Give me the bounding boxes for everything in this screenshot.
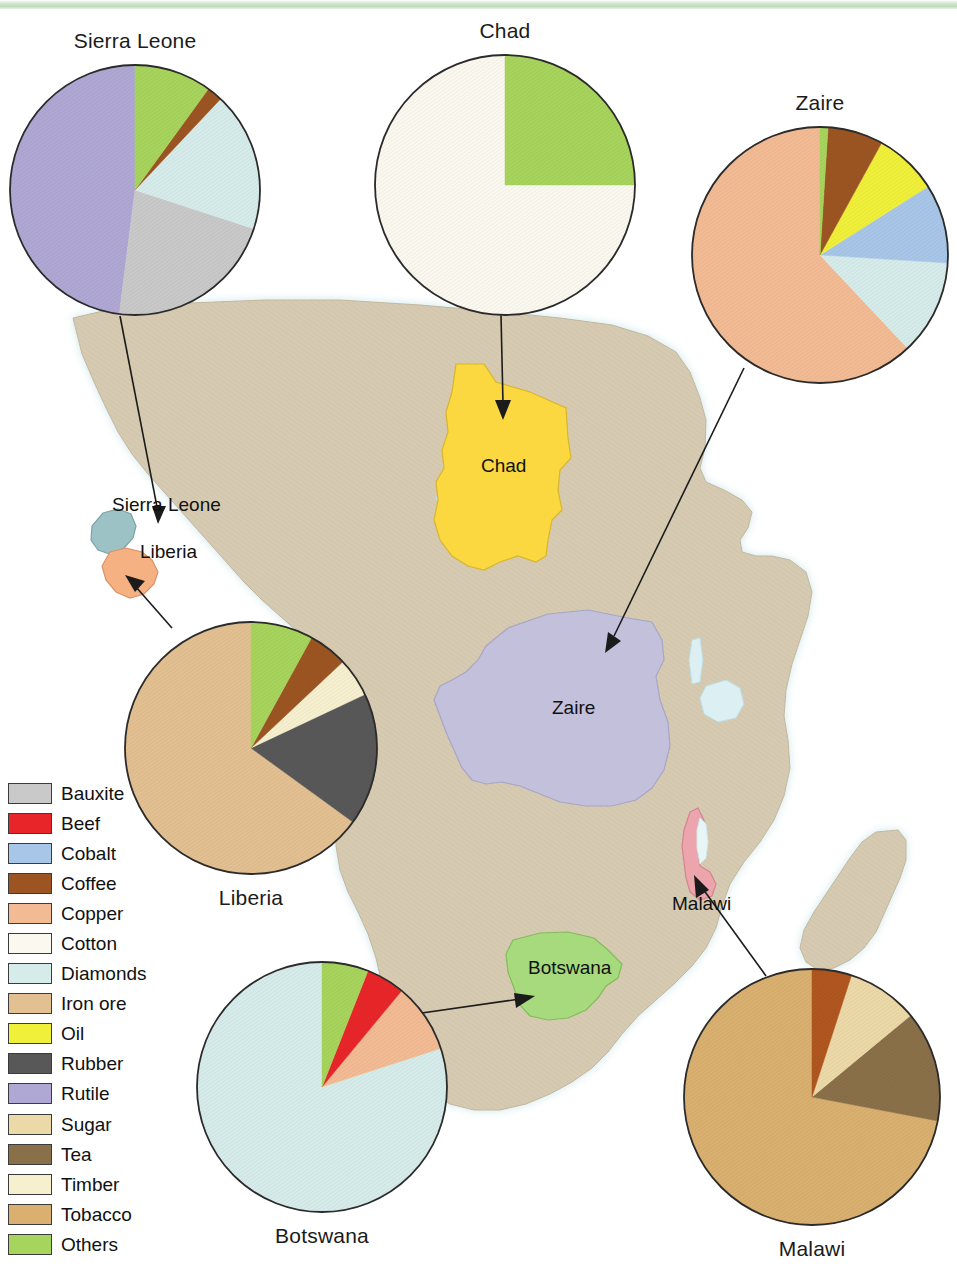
legend-label: Cobalt (61, 844, 116, 863)
legend-label: Sugar (61, 1115, 112, 1134)
map-label-liberia: Liberia (140, 541, 197, 563)
legend-swatch-rutile (8, 1083, 52, 1104)
pie-svg-botswana (195, 960, 449, 1214)
legend-swatch-diamonds (8, 963, 52, 984)
legend-swatch-rubber (8, 1053, 52, 1074)
legend-label: Oil (61, 1024, 84, 1043)
pie-chart-liberia[interactable]: Liberia (123, 620, 379, 910)
madagascar-outline (800, 830, 906, 970)
lake-tanganyika (689, 638, 703, 684)
legend-item-cobalt[interactable]: Cobalt (8, 838, 158, 868)
pie-title-botswana: Botswana (195, 1224, 449, 1248)
pie-title-chad: Chad (373, 19, 637, 43)
commodity-legend: BauxiteBeefCobaltCoffeeCopperCottonDiamo… (8, 778, 158, 1260)
pie-chart-malawi[interactable]: Malawi (682, 967, 942, 1261)
legend-label: Others (61, 1235, 118, 1254)
pie-svg-zaire (690, 125, 950, 385)
legend-item-timber[interactable]: Timber (8, 1169, 158, 1199)
legend-item-copper[interactable]: Copper (8, 898, 158, 928)
legend-item-cotton[interactable]: Cotton (8, 928, 158, 958)
legend-swatch-copper (8, 903, 52, 924)
legend-item-rubber[interactable]: Rubber (8, 1049, 158, 1079)
legend-swatch-tea (8, 1144, 52, 1165)
legend-swatch-bauxite (8, 783, 52, 804)
legend-swatch-tobacco (8, 1204, 52, 1225)
legend-swatch-others (8, 1234, 52, 1255)
legend-swatch-cotton (8, 933, 52, 954)
legend-label: Tobacco (61, 1205, 132, 1224)
pie-svg-liberia (123, 620, 379, 876)
map-label-malawi: Malawi (672, 893, 731, 915)
legend-item-iron-ore[interactable]: Iron ore (8, 989, 158, 1019)
pie-svg-malawi (682, 967, 942, 1227)
legend-label: Coffee (61, 874, 117, 893)
pie-svg-chad (373, 53, 637, 317)
legend-label: Iron ore (61, 994, 126, 1013)
legend-item-beef[interactable]: Beef (8, 808, 158, 838)
pie-slice-texture (10, 65, 135, 314)
legend-item-tobacco[interactable]: Tobacco (8, 1199, 158, 1229)
legend-swatch-coffee (8, 873, 52, 894)
pie-slice-texture (505, 55, 635, 185)
legend-label: Tea (61, 1145, 92, 1164)
legend-item-tea[interactable]: Tea (8, 1139, 158, 1169)
legend-label: Rubber (61, 1054, 123, 1073)
legend-label: Bauxite (61, 784, 124, 803)
lake-malawi (697, 818, 708, 864)
legend-item-others[interactable]: Others (8, 1229, 158, 1259)
pie-chart-botswana[interactable]: Botswana (195, 960, 449, 1248)
legend-swatch-oil (8, 1023, 52, 1044)
map-label-chad: Chad (481, 455, 526, 477)
map-label-botswana: Botswana (528, 957, 611, 979)
legend-swatch-iron-ore (8, 993, 52, 1014)
legend-label: Beef (61, 814, 100, 833)
legend-swatch-beef (8, 813, 52, 834)
lake-victoria (700, 680, 744, 722)
pie-chart-zaire[interactable]: Zaire (690, 91, 950, 385)
legend-label: Rutile (61, 1084, 110, 1103)
legend-label: Timber (61, 1175, 119, 1194)
legend-item-rutile[interactable]: Rutile (8, 1079, 158, 1109)
legend-item-bauxite[interactable]: Bauxite (8, 778, 158, 808)
madagascar (800, 830, 906, 970)
africa-commodities-map-page: Sierra Leone Liberia Chad Zaire Malawi B… (0, 0, 957, 1271)
legend-item-diamonds[interactable]: Diamonds (8, 959, 158, 989)
pie-title-malawi: Malawi (682, 1237, 942, 1261)
pie-title-zaire: Zaire (690, 91, 950, 115)
pie-title-sierra-leone: Sierra Leone (8, 29, 262, 53)
legend-swatch-timber (8, 1174, 52, 1195)
legend-item-oil[interactable]: Oil (8, 1019, 158, 1049)
legend-label: Cotton (61, 934, 117, 953)
legend-item-coffee[interactable]: Coffee (8, 868, 158, 898)
legend-swatch-cobalt (8, 843, 52, 864)
map-label-sierra-leone: Sierra Leone (112, 494, 221, 516)
pie-chart-chad[interactable]: Chad (373, 19, 637, 317)
legend-item-sugar[interactable]: Sugar (8, 1109, 158, 1139)
pie-chart-sierra-leone[interactable]: Sierra Leone (8, 29, 262, 317)
map-label-zaire: Zaire (552, 697, 595, 719)
pie-title-liberia: Liberia (123, 886, 379, 910)
legend-swatch-sugar (8, 1114, 52, 1135)
legend-label: Diamonds (61, 964, 147, 983)
pie-svg-sierra-leone (8, 63, 262, 317)
legend-label: Copper (61, 904, 123, 923)
